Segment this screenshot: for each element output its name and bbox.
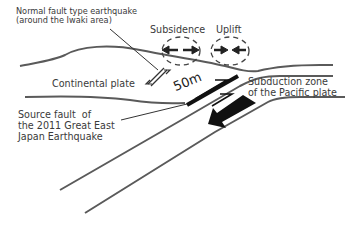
source-fault-leader: [121, 104, 187, 120]
subsidence-label: Subsidence: [150, 24, 205, 35]
subsidence-arrows-icon: [162, 46, 199, 54]
continental-plate-label: Continental plate: [52, 78, 135, 89]
normal-fault-slip-icon: [146, 68, 170, 86]
source-fault-label: Source fault of the 2011 Great East Japa…: [18, 109, 115, 142]
uplift-arrows-icon: [214, 46, 246, 54]
continental-plate-base: [25, 96, 185, 103]
subduction-zone-label: Subduction zone of the Pacific plate: [248, 76, 337, 98]
uplift-label: Uplift: [216, 24, 241, 35]
normal-fault-leader: [110, 29, 158, 70]
fault-diagram: Normal fault type earthquake (around the…: [0, 0, 355, 226]
normal-fault-label: Normal fault type earthquake (around the…: [16, 7, 137, 26]
